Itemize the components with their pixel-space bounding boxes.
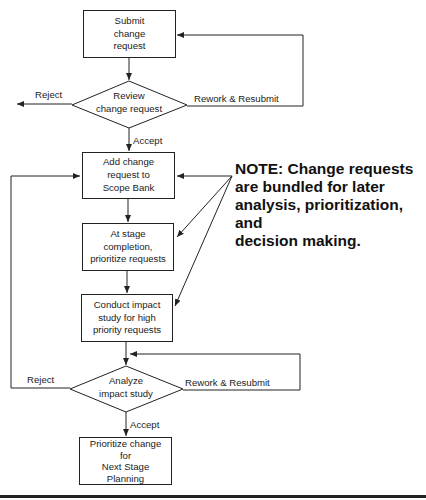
prioritize-change-box: Prioritize change for Next Stage Plannin… (79, 437, 172, 485)
review-change-request-label: Review change request (84, 89, 174, 115)
node-label-line: for (90, 450, 161, 462)
node-label-line: study for high (93, 312, 161, 325)
node-label-line: request (114, 40, 146, 53)
bottom-rule-divider (0, 495, 426, 498)
node-label-line: Analyze (81, 374, 171, 387)
analyze-impact-study-label: Analyze impact study (81, 374, 171, 400)
node-label-line: priority requests (93, 324, 161, 337)
analyze-accept-label: Accept (130, 419, 159, 430)
node-label-line: Conduct impact (93, 299, 161, 312)
prioritize-requests-box: At stage completion, prioritize requests (82, 223, 174, 271)
node-label-line: Planning (90, 473, 161, 485)
node-label-line: completion, (90, 241, 166, 254)
note-arrow-to-prioritize (177, 176, 232, 237)
node-label-line: request to (103, 169, 155, 182)
node-label-line: impact study (81, 387, 171, 400)
note-line: NOTE: Change requests (235, 160, 425, 178)
arrow-analyze-reject (11, 176, 80, 388)
analyze-rework-label: Rework & Resubmit (185, 377, 270, 388)
note-line: are bundled for later (235, 178, 425, 196)
node-label-line: At stage (90, 228, 166, 241)
review-accept-label: Accept (133, 135, 162, 146)
node-label-line: prioritize requests (90, 253, 166, 266)
node-label-line: Next Stage (90, 461, 161, 473)
add-to-scope-bank-box: Add change request to Scope Bank (82, 152, 175, 199)
node-label-line: change request (84, 102, 174, 115)
conduct-impact-study-box: Conduct impact study for high priority r… (81, 294, 173, 342)
note-line: decision making. (235, 232, 425, 250)
node-label-line: Scope Bank (103, 182, 155, 195)
submit-change-request-box: Submit change request (83, 10, 176, 58)
note-arrow-to-impact (175, 176, 232, 306)
node-label-line: Add change (103, 156, 155, 169)
analyze-reject-label: Reject (27, 374, 54, 385)
flowchart-connectors (0, 0, 426, 500)
node-label-line: Submit (114, 15, 146, 28)
note-line: analysis, prioritization, and (235, 196, 425, 232)
note-text: NOTE: Change requests are bundled for la… (235, 160, 425, 250)
node-label-line: Review (84, 89, 174, 102)
review-rework-label: Rework & Resubmit (194, 93, 279, 104)
node-label-line: change (114, 28, 146, 41)
node-label-line: Prioritize change (90, 438, 161, 450)
review-reject-label: Reject (35, 89, 62, 100)
